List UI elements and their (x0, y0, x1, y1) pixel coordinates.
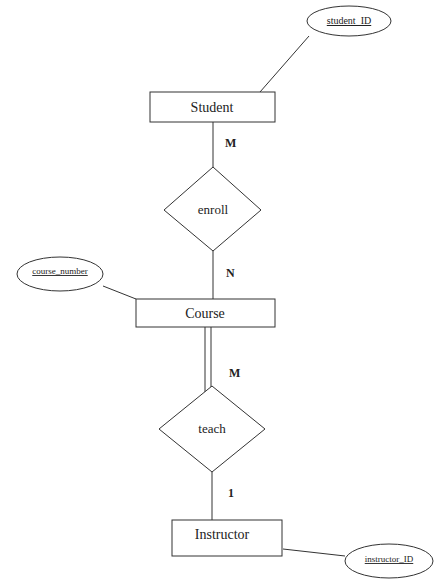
relationship-enroll: enroll (164, 167, 261, 251)
instructor-id-link (283, 549, 345, 556)
cardinality-label: N (226, 266, 235, 280)
entity-label: Instructor (195, 527, 250, 542)
cardinality-label: 1 (228, 486, 234, 500)
attribute-label: course_number (32, 266, 87, 276)
attribute-course-number: course_number (17, 257, 103, 291)
cardinality-label: M (225, 136, 236, 150)
attribute-label: student_ID (327, 15, 371, 26)
relationship-label: teach (198, 421, 226, 436)
attribute-instructor-id: instructor_ID (345, 544, 433, 578)
er-diagram: student_ID Student M enroll N course_num… (0, 0, 447, 588)
course-number-link (103, 286, 136, 299)
attribute-student-id: student_ID (307, 6, 391, 36)
student-id-link (260, 36, 309, 92)
attribute-label: instructor_ID (365, 554, 414, 564)
relationship-teach: teach (159, 386, 265, 472)
cardinality-label: M (229, 366, 240, 380)
entity-instructor: Instructor (172, 520, 282, 556)
entity-course: Course (136, 299, 275, 327)
entity-label: Student (191, 100, 234, 115)
relationship-label: enroll (198, 202, 229, 217)
entity-label: Course (185, 306, 225, 321)
entity-student: Student (150, 92, 275, 122)
